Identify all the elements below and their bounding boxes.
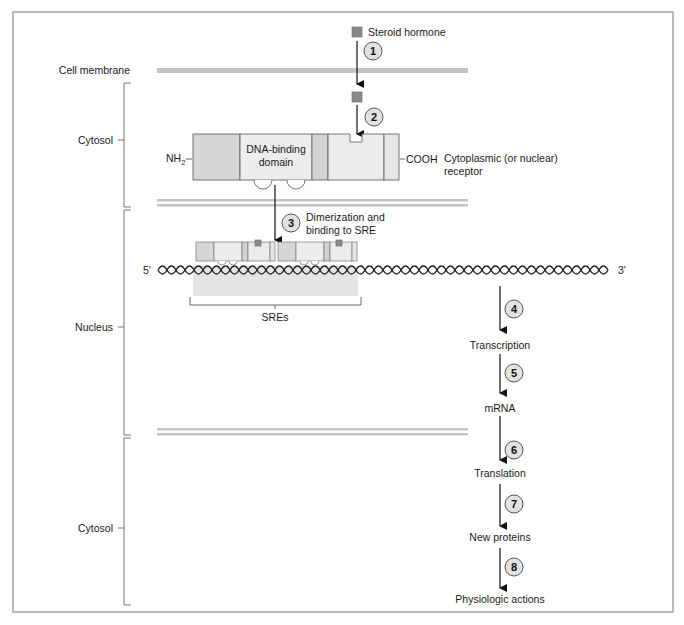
nuclear-envelope-bottom bbox=[157, 428, 468, 436]
svg-text:3: 3 bbox=[288, 217, 294, 229]
sre-bracket bbox=[190, 297, 361, 309]
svg-text:8: 8 bbox=[511, 561, 517, 573]
five-prime-label: 5' bbox=[143, 264, 151, 276]
nucleus-label: Nucleus bbox=[75, 321, 113, 333]
step-7-badge: 7 bbox=[505, 495, 523, 513]
step-3-badge: 3 bbox=[282, 214, 300, 232]
n-terminus-label: NH2 bbox=[166, 152, 185, 167]
svg-text:7: 7 bbox=[511, 498, 517, 510]
sre-label: SREs bbox=[262, 311, 289, 323]
cytosol-bottom-bracket bbox=[118, 438, 131, 605]
step-3-label-line1: Dimerization and bbox=[306, 211, 385, 223]
steroid-hormone-icon bbox=[352, 27, 362, 37]
cell-membrane bbox=[157, 68, 468, 73]
cytosol-top-label: Cytosol bbox=[78, 134, 113, 146]
steroid-hormone-label: Steroid hormone bbox=[368, 26, 446, 38]
new-proteins-label: New proteins bbox=[469, 531, 530, 543]
nuclear-envelope-top bbox=[157, 199, 468, 207]
receptor-dimer-right bbox=[278, 240, 357, 265]
cytosol-top-bracket bbox=[118, 83, 131, 207]
step-3-label-line2: binding to SRE bbox=[306, 224, 376, 236]
translation-label: Translation bbox=[474, 467, 526, 479]
intracellular-hormone-icon bbox=[352, 92, 362, 102]
cell-membrane-label: Cell membrane bbox=[59, 64, 130, 76]
svg-text:5: 5 bbox=[511, 367, 517, 379]
c-terminus-label: COOH bbox=[406, 153, 438, 165]
nucleus-bracket bbox=[118, 210, 131, 435]
three-prime-label: 3' bbox=[618, 264, 626, 276]
receptor-dimer-left bbox=[196, 240, 275, 265]
step-5-badge: 5 bbox=[505, 364, 523, 382]
svg-text:4: 4 bbox=[511, 303, 518, 315]
dna-binding-domain-label-line2: domain bbox=[259, 156, 294, 168]
mrna-label: mRNA bbox=[485, 402, 516, 414]
step-6-badge: 6 bbox=[505, 441, 523, 459]
step-4-badge: 4 bbox=[505, 300, 523, 318]
step-8-badge: 8 bbox=[505, 558, 523, 576]
step-1-badge: 1 bbox=[364, 42, 382, 60]
svg-text:2: 2 bbox=[371, 111, 377, 123]
dna-binding-domain-label-line1: DNA-binding bbox=[246, 143, 306, 155]
cytosol-bottom-label: Cytosol bbox=[78, 522, 113, 534]
transcription-label: Transcription bbox=[470, 339, 530, 351]
step-2-badge: 2 bbox=[365, 108, 383, 126]
receptor-description-line1: Cytoplasmic (or nuclear) bbox=[444, 152, 558, 164]
svg-text:6: 6 bbox=[511, 444, 517, 456]
svg-text:1: 1 bbox=[370, 45, 376, 57]
steroid-hormone-pathway-diagram: Cell membrane Cytosol Nucleus Cytosol St… bbox=[0, 0, 684, 625]
physiologic-actions-label: Physiologic actions bbox=[455, 593, 544, 605]
receptor-description-line2: receptor bbox=[444, 165, 483, 177]
